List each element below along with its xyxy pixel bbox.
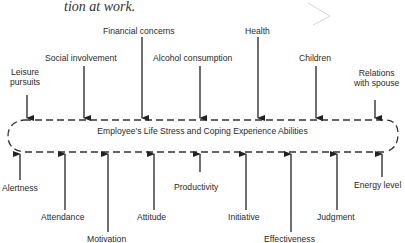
pencil-mark (308, 3, 330, 25)
output-label-energy: Energy level (354, 180, 401, 190)
input-arrows (27, 37, 375, 118)
input-label-children: Children (299, 53, 331, 63)
output-label-alertness: Alertness (2, 183, 38, 193)
center-dashed-box (8, 120, 398, 152)
output-label-effectiveness: Effectiveness (264, 234, 315, 243)
input-label-alcohol: Alcohol consumption (153, 53, 232, 63)
input-label-leisure: Leisure pursuits (10, 67, 40, 87)
output-label-judgment: Judgment (317, 212, 355, 222)
input-label-financial: Financial concerns (103, 26, 175, 36)
output-label-motivation: Motivation (87, 234, 126, 243)
output-label-attitude: Attitude (137, 212, 166, 222)
center-label: Employee's Life Stress and Coping Experi… (0, 126, 405, 136)
diagram-canvas (0, 0, 405, 243)
input-label-spouse: Relations with spouse (354, 68, 399, 88)
input-label-social: Social involvement (45, 53, 117, 63)
output-label-attendance: Attendance (41, 212, 84, 222)
output-label-initiative: Initiative (228, 212, 260, 222)
input-label-health: Health (245, 26, 270, 36)
output-label-productivity: Productivity (174, 182, 218, 192)
